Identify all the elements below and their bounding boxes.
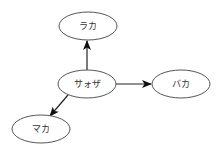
node-bottom-left[interactable]: マカ	[12, 115, 70, 143]
node-center[interactable]: サォザ	[58, 70, 116, 98]
node-right-label: バカ	[172, 79, 190, 89]
node-right[interactable]: バカ	[152, 70, 210, 98]
edge-center-to-bottom-left	[50, 95, 68, 116]
node-center-label: サォザ	[74, 79, 101, 89]
node-top[interactable]: ラカ	[59, 12, 117, 40]
node-top-label: ラカ	[79, 21, 97, 31]
node-bottom-left-label: マカ	[32, 124, 50, 134]
diagram-canvas: ラカ サォザ バカ マカ	[0, 0, 217, 153]
